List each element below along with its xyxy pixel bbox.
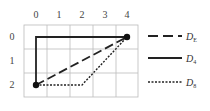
col-label-0: 0 xyxy=(34,9,39,20)
legend-item-de: DE xyxy=(148,31,197,43)
svg-text:D8: D8 xyxy=(185,77,196,89)
distance-metrics-diagram: 0 1 2 3 4 0 1 2 DE D4 xyxy=(0,0,210,111)
svg-text:D4: D4 xyxy=(185,53,196,65)
row-label-2: 2 xyxy=(10,79,15,90)
column-labels: 0 1 2 3 4 xyxy=(34,9,130,20)
row-label-0: 0 xyxy=(10,31,15,42)
col-label-2: 2 xyxy=(80,9,85,20)
start-point xyxy=(33,82,39,88)
col-label-1: 1 xyxy=(57,9,62,20)
legend-item-d4: D4 xyxy=(148,53,196,65)
legend: DE D4 D8 xyxy=(148,31,197,89)
col-label-4: 4 xyxy=(125,9,130,20)
path-de xyxy=(36,37,127,85)
svg-text:DE: DE xyxy=(185,31,197,43)
col-label-3: 3 xyxy=(103,9,108,20)
row-labels: 0 1 2 xyxy=(10,31,15,90)
pixel-grid xyxy=(24,25,138,97)
end-point xyxy=(124,34,130,40)
legend-item-d8: D8 xyxy=(148,77,196,89)
row-label-1: 1 xyxy=(10,55,15,66)
